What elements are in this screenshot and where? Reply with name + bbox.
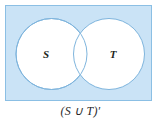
- figure-caption: (S ∪ T)′: [0, 104, 161, 119]
- set-s-label: S: [43, 48, 49, 60]
- venn-diagram-figure: S T (S ∪ T)′: [0, 0, 161, 126]
